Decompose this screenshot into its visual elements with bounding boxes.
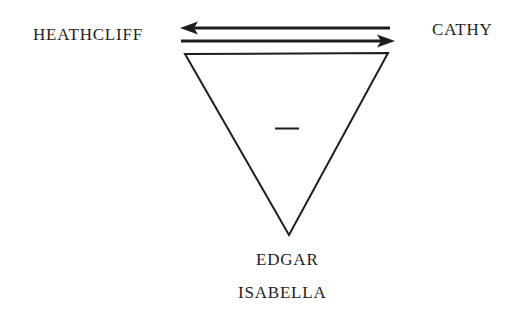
inverted-triangle — [185, 53, 388, 235]
node-cathy: CATHY — [432, 21, 493, 38]
arrow-to-cathy — [181, 35, 395, 48]
node-heathcliff: HEATHCLIFF — [33, 26, 143, 43]
node-edgar: EDGAR — [256, 251, 319, 268]
arrow-to-heathcliff — [180, 22, 390, 35]
node-isabella: ISABELLA — [238, 284, 327, 301]
